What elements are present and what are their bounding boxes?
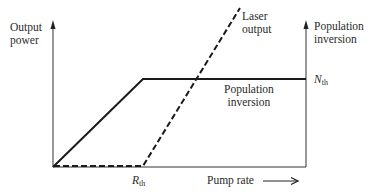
population-inversion-label: Population inversion bbox=[224, 83, 274, 109]
laser-output-label: Laser output bbox=[242, 10, 271, 36]
x-axis-label: Pump rate bbox=[207, 174, 254, 187]
laser-output-curve bbox=[54, 8, 240, 166]
left-axis-arrow-icon bbox=[51, 20, 56, 29]
threshold-pump-label: Rth bbox=[132, 174, 145, 190]
threshold-inversion-label: Nth bbox=[314, 73, 328, 89]
right-axis-arrow-icon bbox=[304, 20, 309, 29]
right-axis-label: Population inversion bbox=[314, 20, 364, 46]
left-axis-label: Output power bbox=[10, 21, 42, 47]
